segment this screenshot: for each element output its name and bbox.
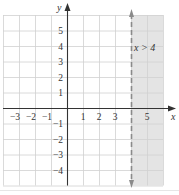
svg-text:−1: −1 [53, 119, 63, 129]
inequality-annotation: x > 4 [133, 42, 155, 53]
bottom-divider [0, 190, 179, 191]
y-axis-label: y [56, 2, 62, 13]
svg-text:−2: −2 [26, 112, 36, 122]
svg-text:3: 3 [58, 57, 63, 67]
shaded-region [131, 15, 163, 186]
svg-text:−2: −2 [53, 135, 63, 145]
svg-text:4: 4 [58, 42, 63, 52]
svg-text:5: 5 [145, 112, 150, 122]
tick-labels: −3−2−11235−4−3−2−112345 [10, 26, 150, 176]
svg-text:−3: −3 [10, 112, 20, 122]
inequality-graph: −3−2−11235−4−3−2−112345 x y x > 4 [0, 0, 179, 195]
svg-text:−1: −1 [42, 112, 52, 122]
svg-text:−4: −4 [53, 166, 63, 176]
svg-text:5: 5 [58, 26, 63, 36]
svg-text:2: 2 [97, 112, 102, 122]
x-axis-label: x [170, 111, 176, 122]
svg-text:1: 1 [58, 88, 63, 98]
svg-text:−3: −3 [53, 150, 63, 160]
svg-text:1: 1 [81, 112, 86, 122]
svg-text:2: 2 [58, 73, 63, 83]
svg-text:3: 3 [113, 112, 118, 122]
